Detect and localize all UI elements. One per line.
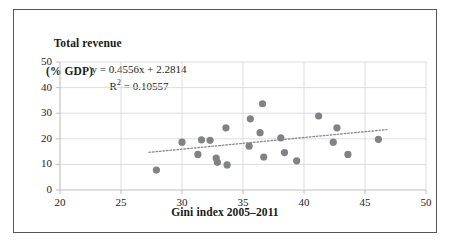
x-axis-tick-label: 20 [45,196,75,208]
x-axis-tick-label: 50 [411,196,441,208]
data-point [153,166,160,173]
x-axis-tick-label: 45 [350,196,380,208]
data-point [333,124,340,131]
y-axis-tick-label: 0 [28,183,52,195]
y-axis-tick-label: 30 [28,106,52,118]
data-point [246,143,253,150]
data-point [178,139,185,146]
data-point [206,137,213,144]
figure-frame: Total revenue (% GDP) y = 0.4556x + 2.28… [13,9,437,233]
x-axis-tick-label: 30 [167,196,197,208]
y-axis-tick-label: 40 [28,81,52,93]
data-point [194,151,201,158]
data-point [214,159,221,166]
data-point [256,129,263,136]
data-point [375,136,382,143]
data-point [247,115,254,122]
data-point [224,161,231,168]
x-axis-tick-label: 25 [106,196,136,208]
scatter-chart: Total revenue (% GDP) y = 0.4556x + 2.28… [14,10,436,232]
x-axis-tick-label: 35 [228,196,258,208]
y-axis-tick-label: 10 [28,157,52,169]
y-axis-tick-label: 50 [28,55,52,67]
data-point [281,149,288,156]
data-point [277,134,284,141]
data-point [222,124,229,131]
y-axis-tick-label: 20 [28,132,52,144]
data-point [198,136,205,143]
x-axis-tick-label: 40 [289,196,319,208]
data-point [260,153,267,160]
data-point [315,112,322,119]
data-point [259,100,266,107]
data-point [344,151,351,158]
data-point [293,157,300,164]
data-point [330,139,337,146]
